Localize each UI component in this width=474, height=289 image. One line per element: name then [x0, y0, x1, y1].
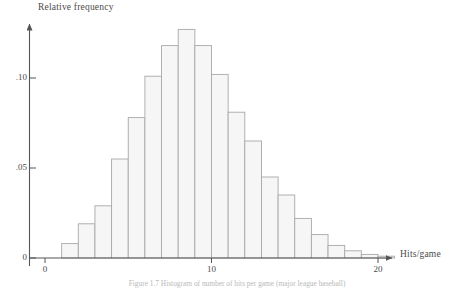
histogram-bar	[62, 244, 79, 258]
histogram-bar	[145, 76, 162, 258]
histogram-bar	[311, 235, 328, 258]
histogram-bar	[328, 245, 345, 258]
y-tick-label: .05	[0, 162, 27, 172]
histogram-bar	[345, 251, 362, 258]
histogram-bar	[228, 112, 245, 258]
histogram-bar	[195, 46, 212, 258]
x-axis-title: Hits/game	[400, 249, 441, 259]
x-tick-label: 20	[363, 264, 393, 274]
histogram-figure: Relative frequency Hits/game 010200.05.1…	[0, 0, 474, 289]
histogram-bar	[261, 177, 278, 258]
y-tick-label: .10	[0, 72, 27, 82]
histogram-bar	[112, 159, 129, 258]
histogram-bar	[95, 206, 112, 258]
x-tick-label: 10	[197, 264, 227, 274]
histogram-bars	[62, 29, 395, 258]
histogram-bar	[212, 74, 229, 258]
y-axis-title: Relative frequency	[38, 2, 114, 12]
y-tick-label: 0	[0, 252, 27, 262]
histogram-bar	[128, 118, 145, 258]
histogram-bar	[278, 195, 295, 258]
histogram-bar	[178, 29, 195, 258]
histogram-bar	[78, 224, 95, 258]
histogram-bar	[245, 141, 262, 258]
histogram-bar	[295, 218, 312, 258]
chart-canvas	[0, 0, 474, 289]
x-tick-label: 0	[30, 264, 60, 274]
histogram-bar	[162, 46, 179, 258]
figure-caption: Figure 1.7 Histogram of number of hits p…	[0, 279, 474, 288]
